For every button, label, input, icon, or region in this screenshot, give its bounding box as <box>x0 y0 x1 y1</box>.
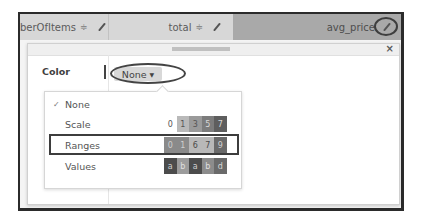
swatch: 0 <box>164 116 177 132</box>
chevron-down-icon: ▼ <box>150 71 155 78</box>
column-label: avg_price <box>327 22 375 33</box>
pencil-icon <box>383 23 391 31</box>
text-cursor <box>104 65 106 79</box>
swatch: 9 <box>214 137 227 153</box>
swatch: b <box>177 158 190 174</box>
column-header-total[interactable]: total ≑ <box>109 14 233 40</box>
swatch: 0 <box>164 137 177 153</box>
swatch-group: 0 1 6 7 9 <box>164 137 227 153</box>
swatch: 3 <box>189 116 202 132</box>
swatch-group: a b a b d <box>164 158 227 174</box>
swatch: 1 <box>177 116 190 132</box>
checkmark-icon: ✓ <box>53 100 60 109</box>
swatch: 1 <box>177 137 190 153</box>
menu-item-none[interactable]: ✓ None <box>45 94 241 114</box>
column-format-modal: × Color None ▼ ✓ None Scale 0 1 3 5 7 Ra… <box>27 43 400 205</box>
menu-item-label: Values <box>65 161 96 172</box>
swatch: 7 <box>202 137 215 153</box>
swatch: 7 <box>214 116 227 132</box>
column-label: total <box>169 22 192 33</box>
menu-item-ranges[interactable]: Ranges 0 1 6 7 9 <box>45 135 241 155</box>
swatch: a <box>164 158 177 174</box>
modal-drag-bar[interactable]: × <box>28 44 399 56</box>
column-label: berOfItems <box>20 22 76 33</box>
color-menu: ✓ None Scale 0 1 3 5 7 Ranges 0 1 6 7 9 <box>44 91 242 189</box>
sort-arrows-icon[interactable]: ≑ <box>80 22 88 32</box>
drag-grip-icon[interactable] <box>172 47 230 51</box>
swatch: 6 <box>189 137 202 153</box>
color-label: Color <box>42 66 70 77</box>
menu-item-values[interactable]: Values a b a b d <box>45 156 241 176</box>
swatch: b <box>202 158 215 174</box>
color-dropdown[interactable]: None ▼ <box>114 67 162 81</box>
dropdown-value: None <box>122 69 147 80</box>
edit-column-button[interactable] <box>374 17 398 36</box>
close-icon[interactable]: × <box>386 43 394 54</box>
menu-item-label: None <box>65 99 90 110</box>
sort-arrows-icon[interactable]: ≑ <box>195 22 203 32</box>
table-header: berOfItems ≑ total ≑ avg_price <box>20 14 401 40</box>
swatch: d <box>214 158 227 174</box>
menu-item-label: Scale <box>65 119 91 130</box>
column-header-avg-price[interactable]: avg_price <box>233 14 401 40</box>
pencil-icon[interactable] <box>213 23 221 31</box>
swatch: a <box>189 158 202 174</box>
swatch-group: 0 1 3 5 7 <box>164 116 227 132</box>
swatch: 5 <box>202 116 215 132</box>
menu-item-scale[interactable]: Scale 0 1 3 5 7 <box>45 114 241 134</box>
menu-item-label: Ranges <box>65 140 100 151</box>
column-header-numberofitems[interactable]: berOfItems ≑ <box>20 14 109 40</box>
